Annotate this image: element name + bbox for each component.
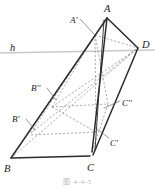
leader-A-prime [80, 19, 95, 35]
vertex-label-c: C [87, 163, 94, 174]
geometry-figure: ADBCA'B''C''B'C'h 图 4-4-5 [0, 0, 155, 190]
point-label-a-prime: A' [70, 16, 77, 25]
edge-B-to-C [11, 156, 90, 158]
point-label-b-double-prime: B'' [31, 84, 40, 93]
hidden-edge-group [11, 35, 138, 158]
vertex-label-a: A [104, 4, 110, 15]
edge-B-to-A [11, 18, 107, 158]
figure-caption: 图 4-4-5 [0, 176, 155, 186]
hidden-Bpp-to-Cpp [52, 104, 108, 107]
hidden-Bp-to-D [31, 48, 138, 133]
vertex-label-b: B [4, 164, 10, 175]
leader-C-double-prime [104, 101, 120, 108]
vertex-label-d: D [142, 40, 150, 51]
plane-line-label-h: h [10, 43, 15, 54]
figure-canvas [0, 0, 155, 190]
point-label-c-double-prime: C'' [122, 99, 132, 108]
hidden-Bpp-to-Cp [52, 107, 96, 132]
leader-line-group [26, 19, 120, 138]
point-label-c-prime: C' [110, 139, 118, 148]
point-label-b-prime: B' [12, 115, 19, 124]
hidden-Bp-to-Cp [31, 132, 96, 135]
